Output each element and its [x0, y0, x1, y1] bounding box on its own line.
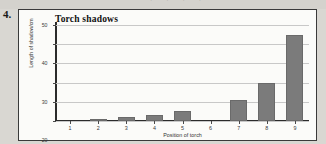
- x-tick-label: 2: [97, 125, 100, 131]
- x-tick-label: 1: [69, 125, 72, 131]
- y-tick-mark: 20: [53, 83, 57, 84]
- x-tick-label: 9: [293, 125, 296, 131]
- x-tick-mark: [70, 121, 71, 124]
- y-tick-label: 50: [42, 22, 48, 28]
- y-tick-label: 20: [42, 137, 48, 143]
- x-axis-label: Position of torch: [56, 132, 309, 138]
- chart-panel: Torch shadows Length of shadow/cm 010203…: [18, 9, 317, 141]
- y-tick-label: 40: [42, 60, 48, 66]
- bar: [286, 35, 303, 121]
- page-bleed-strip: · · · ·: [0, 0, 326, 9]
- gridline: [56, 44, 309, 45]
- x-tick-label: 5: [181, 125, 184, 131]
- x-tick-mark: [126, 121, 127, 124]
- x-tick-mark: [183, 121, 184, 124]
- gridline: [56, 63, 309, 64]
- y-tick-label: 30: [42, 99, 48, 105]
- y-tick-mark: 0: [53, 121, 57, 122]
- x-tick-label: 4: [153, 125, 156, 131]
- plot-area: 01020304050 123456789: [56, 25, 309, 121]
- question-number: 4.: [3, 8, 11, 20]
- x-tick-mark: [211, 121, 212, 124]
- x-tick-label: 7: [237, 125, 240, 131]
- bar: [230, 100, 247, 121]
- bar: [258, 83, 275, 121]
- x-tick-mark: [267, 121, 268, 124]
- x-tick-mark: [154, 121, 155, 124]
- y-axis-label: Length of shadow/cm: [28, 8, 34, 78]
- x-tick-mark: [98, 121, 99, 124]
- x-tick-mark: [239, 121, 240, 124]
- y-tick-mark: 40: [53, 44, 57, 45]
- x-tick-label: 8: [265, 125, 268, 131]
- gridline: [56, 25, 309, 26]
- x-tick-label: 6: [209, 125, 212, 131]
- y-tick-mark: 10: [53, 102, 57, 103]
- y-tick-mark: 30: [53, 63, 57, 64]
- y-axis-line: [55, 22, 57, 122]
- chart-title: Torch shadows: [55, 14, 118, 24]
- x-tick-mark: [295, 121, 296, 124]
- bleed-text: · · · ·: [150, 0, 207, 4]
- x-tick-label: 3: [125, 125, 128, 131]
- bar: [174, 111, 191, 121]
- y-tick-mark: 50: [53, 25, 57, 26]
